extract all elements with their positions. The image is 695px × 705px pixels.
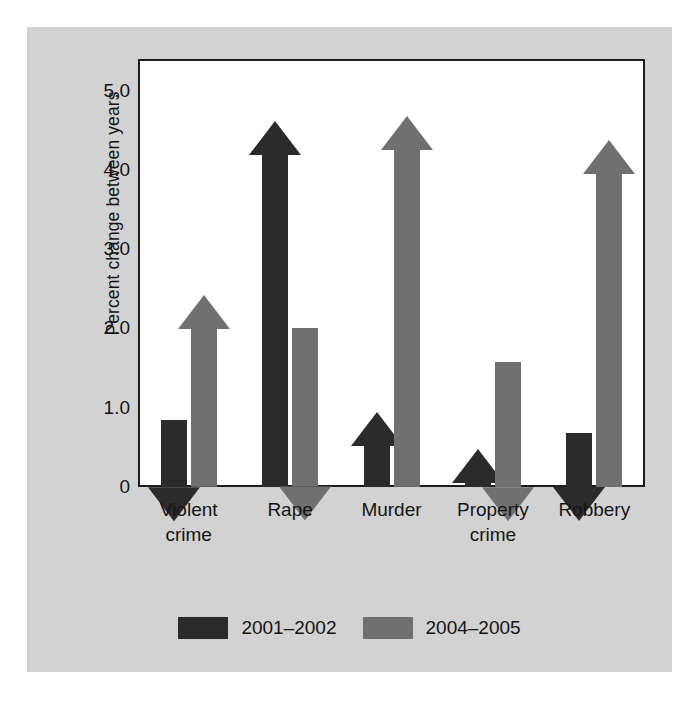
x-axis-category-label-line: crime bbox=[442, 522, 543, 547]
bar-2004-2005 bbox=[379, 116, 435, 487]
x-axis-category-label: Rape bbox=[239, 497, 340, 522]
x-axis-category-label: Murder bbox=[341, 497, 442, 522]
legend-label: 2004–2005 bbox=[426, 617, 521, 639]
bar-2004-2005 bbox=[277, 328, 333, 521]
chart-figure: Percent change between years 01.02.03.04… bbox=[0, 0, 695, 705]
legend-item: 2004–2005 bbox=[363, 617, 521, 639]
legend-item: 2001–2002 bbox=[178, 617, 336, 639]
legend-label: 2001–2002 bbox=[241, 617, 336, 639]
x-axis-category-label-line: Property bbox=[442, 497, 543, 522]
x-axis-labels: ViolentcrimeRapeMurderPropertycrimeRobbe… bbox=[138, 497, 645, 577]
x-axis-category-label: Violentcrime bbox=[138, 497, 239, 547]
x-axis-category-label-line: Robbery bbox=[544, 497, 645, 522]
x-axis-category-label: Robbery bbox=[544, 497, 645, 522]
legend-color-swatch bbox=[363, 617, 413, 639]
bar-2004-2005 bbox=[581, 140, 637, 487]
x-axis-category-label-line: Violent bbox=[138, 497, 239, 522]
x-axis-category-label: Propertycrime bbox=[442, 497, 543, 547]
legend-color-swatch bbox=[178, 617, 228, 639]
figure-panel: Percent change between years 01.02.03.04… bbox=[27, 27, 672, 672]
chart-legend: 2001–20022004–2005 bbox=[27, 617, 672, 639]
plot-area bbox=[138, 59, 645, 487]
x-axis-category-label-line: Rape bbox=[239, 497, 340, 522]
x-axis-category-label-line: Murder bbox=[341, 497, 442, 522]
bar-2004-2005 bbox=[176, 295, 232, 487]
x-axis-category-label-line: crime bbox=[138, 522, 239, 547]
